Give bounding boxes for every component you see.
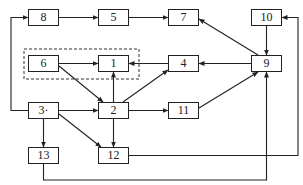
node-9: 9 [251,55,282,72]
edge-3-8 [11,18,28,111]
node-11: 11 [168,102,199,119]
edge-6-2 [59,66,103,102]
edge-2-4 [123,70,168,102]
node-1: 1 [98,55,129,72]
node-4: 4 [168,55,199,72]
edge-12-10 [129,18,298,156]
flow-diagram: 8 5 7 10 6 1 4 9 3· 2 11 13 12 [0,0,303,185]
node-10: 10 [251,9,282,26]
node-3: 3· [28,102,59,119]
node-6: 6 [28,55,59,72]
node-7: 7 [168,9,199,26]
node-12: 12 [98,147,129,164]
node-2: 2 [98,102,129,119]
edge-3-12 [59,114,101,147]
edge-13-9 [44,72,267,180]
edge-11-9 [199,72,258,108]
node-13: 13 [28,147,59,164]
node-8: 8 [28,9,59,26]
node-5: 5 [98,9,129,26]
edge-9-7 [199,19,258,55]
